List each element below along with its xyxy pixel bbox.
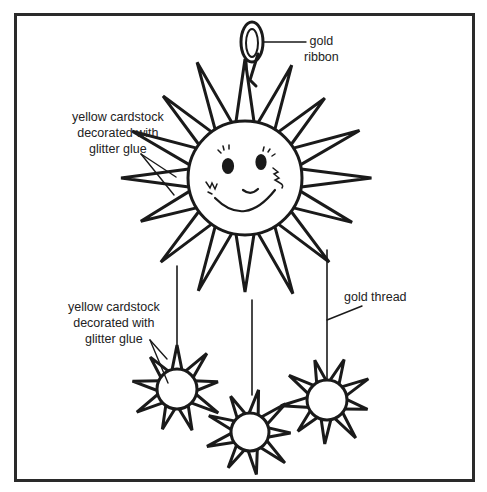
- small-suns-label-line-3: glitter glue: [68, 331, 160, 347]
- gold-thread-label: gold thread: [344, 289, 407, 305]
- main-sun-face-icon: [188, 121, 302, 235]
- gold-thread-label-text: gold thread: [344, 289, 407, 305]
- ribbon-label-line-1: gold: [304, 33, 339, 49]
- gold-thread-lines: [177, 250, 327, 395]
- main-sun-label-line-2: decorated with: [72, 125, 164, 141]
- small-suns-label-line-1: yellow cardstock: [68, 299, 160, 315]
- ribbon-label: gold ribbon: [304, 33, 339, 65]
- ribbon-label-line-2: ribbon: [304, 49, 339, 65]
- main-sun-label: yellow cardstock decorated with glitter …: [72, 109, 164, 157]
- main-sun-label-line-1: yellow cardstock: [72, 109, 164, 125]
- small-suns-icon: [132, 345, 368, 475]
- main-sun-label-line-3: glitter glue: [72, 141, 164, 157]
- sun-mobile-illustration: [0, 0, 487, 492]
- small-suns-label-line-2: decorated with: [68, 315, 160, 331]
- small-suns-label: yellow cardstock decorated with glitter …: [68, 299, 160, 347]
